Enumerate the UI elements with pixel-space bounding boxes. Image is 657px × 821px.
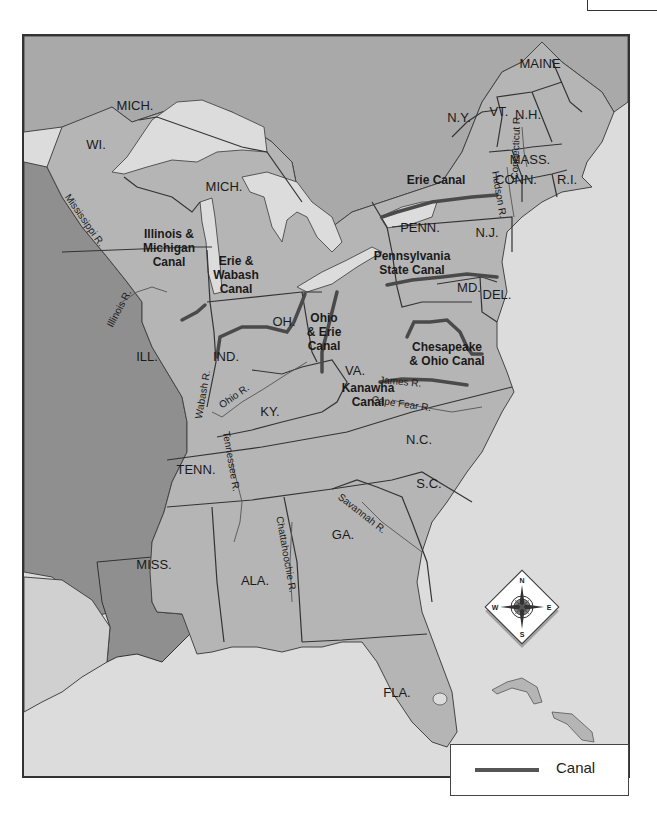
bahamas-islands [492,678,594,742]
state-label: VA. [345,363,365,378]
lake-okeechobee [433,693,447,705]
state-label: N.J. [475,225,498,240]
state-label: MAINE [519,56,561,71]
state-label: FLA. [383,685,410,700]
state-label: MISS. [136,557,171,572]
compass-rose: N S E W [485,570,559,648]
canal-label: Canal [220,282,253,296]
state-label: MICH. [117,98,154,113]
compass-e: E [547,604,552,611]
state-label: ALA. [241,573,269,588]
state-label: MD. [457,280,481,295]
state-label: VT. [490,104,509,119]
compass-w: W [492,604,499,611]
page-tab-corner [587,0,657,11]
state-label: S.C. [416,476,441,491]
canal-label: Illinois & [144,227,194,241]
canal-label: Ohio [310,311,337,325]
compass-n: N [519,577,524,584]
canal-label: Erie Canal [407,173,466,187]
canal-label: & Ohio Canal [409,354,484,368]
state-label: OH. [272,314,295,329]
canal-legend-label: Canal [556,759,595,776]
state-label: PENN. [400,220,440,235]
state-label: ILL. [136,349,158,364]
state-label: DEL. [483,287,512,302]
river-label: Connecticut R. [509,114,522,180]
state-label: WI. [86,137,106,152]
canal-label: Canal [308,339,341,353]
state-label: R.I. [557,172,577,187]
state-label: N.Y. [447,110,471,125]
state-label: N.C. [406,432,432,447]
map-frame: MAINEN.H.VT.N.Y.MASS.CONN.R.I.N.J.PENN.D… [22,34,630,778]
canal-label: State Canal [379,263,444,277]
canal-label: Wabash [213,268,259,282]
state-label: KY. [260,404,279,419]
canal-label: Canal [153,255,186,269]
canal-label: Erie & [219,254,254,268]
state-label: GA. [332,527,354,542]
state-label: IND. [213,349,239,364]
canal-label: Pennsylvania [374,249,451,263]
map-legend: Canal [450,744,629,796]
canal-label: Michigan [143,241,195,255]
canal-legend-swatch [475,768,539,772]
compass-s: S [520,631,525,638]
canal-map: MAINEN.H.VT.N.Y.MASS.CONN.R.I.N.J.PENN.D… [24,36,628,776]
state-label: TENN. [177,462,216,477]
state-label: MICH. [206,179,243,194]
canal-label: & Erie [307,325,342,339]
canal-label: Chesapeake [412,340,482,354]
